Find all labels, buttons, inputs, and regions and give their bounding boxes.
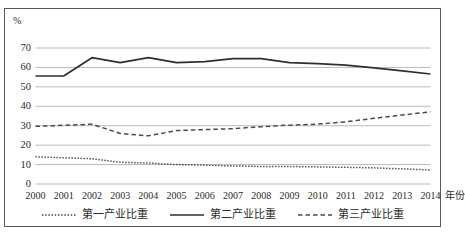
x-tick-label: 2014 xyxy=(418,191,444,201)
legend-label-tertiary: 第三产业比重 xyxy=(338,209,404,221)
legend-swatch-solid-icon xyxy=(170,211,204,219)
series-line-1 xyxy=(36,157,431,170)
x-tick-label: 2003 xyxy=(107,191,133,201)
legend-item-secondary[interactable]: 第二产业比重 xyxy=(170,209,276,221)
x-tick-label: 2005 xyxy=(164,191,190,201)
y-tick-label: 60 xyxy=(7,62,31,72)
x-tick-label: 2000 xyxy=(23,191,49,201)
series-line-3 xyxy=(36,112,431,136)
legend-swatch-dotted-icon xyxy=(42,211,76,219)
x-tick-label: 2012 xyxy=(361,191,387,201)
y-tick-label: 50 xyxy=(7,82,31,92)
x-tick-label: 2007 xyxy=(220,191,246,201)
series-line-2 xyxy=(36,58,431,76)
series-paths-group xyxy=(36,58,431,170)
legend-label-secondary: 第二产业比重 xyxy=(210,209,276,221)
y-tick-label: 0 xyxy=(7,179,31,189)
x-tick-label: 2008 xyxy=(248,191,274,201)
chart-legend: 第一产业比重 第二产业比重 第三产业比重 xyxy=(5,209,440,221)
chart-frame: % 706050403020100 2000200120022003200420… xyxy=(4,8,441,227)
x-tick-label: 2004 xyxy=(135,191,161,201)
y-tick-label: 30 xyxy=(7,121,31,131)
x-tick-label: 2009 xyxy=(276,191,302,201)
x-tick-label: 2011 xyxy=(333,191,359,201)
x-axis-title: 年份 xyxy=(445,191,465,201)
y-tick-label: 40 xyxy=(7,101,31,111)
legend-item-primary[interactable]: 第一产业比重 xyxy=(42,209,148,221)
legend-label-primary: 第一产业比重 xyxy=(82,209,148,221)
x-tick-label: 2010 xyxy=(305,191,331,201)
x-tick-label: 2001 xyxy=(51,191,77,201)
x-tick-label: 2002 xyxy=(79,191,105,201)
x-tick-label: 2006 xyxy=(192,191,218,201)
y-tick-label: 20 xyxy=(7,140,31,150)
y-tick-label: 10 xyxy=(7,160,31,170)
legend-swatch-dashed-icon xyxy=(298,211,332,219)
legend-item-tertiary[interactable]: 第三产业比重 xyxy=(298,209,404,221)
x-tick-label: 2013 xyxy=(389,191,415,201)
y-tick-label: 70 xyxy=(7,43,31,53)
